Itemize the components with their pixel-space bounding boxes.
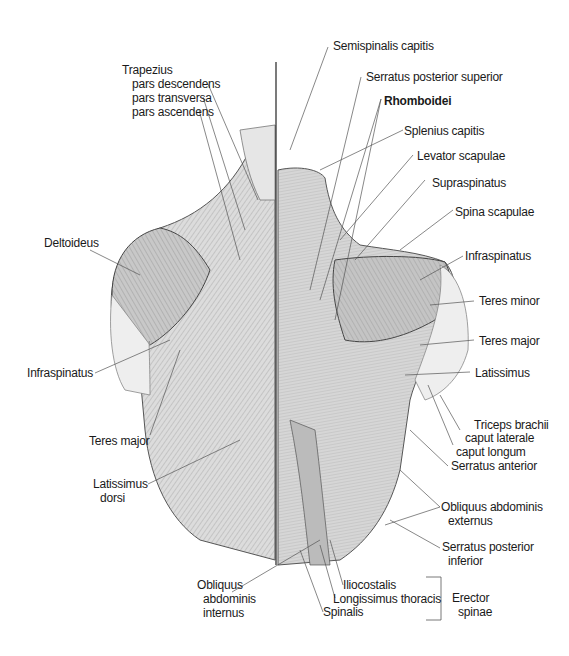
label-obliquus-ext-line1: Obliquus abdominis	[441, 500, 543, 514]
label-rhomboidei: Rhomboidei	[384, 94, 451, 108]
label-teres-major-left: Teres major	[89, 434, 149, 448]
label-latissimus-dorsi: Latissimus dorsi	[93, 477, 148, 505]
label-deltoideus: Deltoideus	[44, 236, 99, 250]
label-obliquus-int-line1: Obliquus	[197, 578, 243, 592]
label-obliquus-internus: Obliquus abdominis internus	[197, 578, 256, 620]
label-spina-scapulae: Spina scapulae	[455, 205, 534, 219]
label-semispinalis-capitis: Semispinalis capitis	[333, 39, 434, 53]
label-obliquus-int-line2: abdominis	[197, 592, 256, 606]
label-serratus-posterior-superior: Serratus posterior superior	[366, 70, 503, 84]
label-trapezius-descendens: pars descendens	[122, 77, 220, 91]
label-iliocostalis: Iliocostalis	[343, 578, 396, 592]
label-obliquus-int-line3: internus	[197, 606, 256, 620]
label-erector-spinae: Erector spinae	[452, 591, 492, 619]
label-trapezius: Trapezius pars descendens pars transvers…	[122, 63, 220, 119]
label-infraspinatus-right: Infraspinatus	[465, 249, 531, 263]
label-trapezius-transversa: pars transversa	[122, 91, 220, 105]
label-serratus-inf-line1: Serratus posterior	[442, 540, 534, 554]
label-levator-scapulae: Levator scapulae	[417, 149, 505, 163]
label-obliquus-ext-line2: externus	[441, 514, 543, 528]
label-spinalis: Spinalis	[323, 605, 363, 619]
label-obliquus-externus: Obliquus abdominis externus	[441, 500, 543, 528]
label-latissimus-right: Latissimus	[475, 366, 530, 380]
label-trapezius-title: Trapezius	[122, 63, 172, 77]
anatomy-figure: Trapezius pars descendens pars transvers…	[0, 0, 569, 656]
label-serratus-posterior-inferior: Serratus posterior inferior	[442, 540, 534, 568]
label-triceps-brachii: Triceps brachii	[474, 418, 549, 432]
label-teres-major-right: Teres major	[479, 334, 539, 348]
label-latissimus-line1: Latissimus	[93, 477, 148, 491]
label-latissimus-line2: dorsi	[93, 491, 148, 505]
deep-back-right	[278, 168, 468, 565]
label-serratus-anterior: Serratus anterior	[451, 459, 537, 473]
label-longissimus-thoracis: Longissimus thoracis	[333, 592, 441, 606]
label-splenius-capitis: Splenius capitis	[404, 124, 484, 138]
label-trapezius-ascendens: pars ascendens	[122, 105, 220, 119]
label-supraspinatus: Supraspinatus	[432, 176, 506, 190]
label-teres-minor: Teres minor	[479, 294, 539, 308]
label-erector-line1: Erector	[452, 591, 489, 605]
label-erector-line2: spinae	[452, 605, 492, 619]
label-caput-laterale: caput laterale	[465, 431, 534, 445]
label-serratus-inf-line2: inferior	[442, 554, 534, 568]
label-infraspinatus-left: Infraspinatus	[27, 366, 93, 380]
label-caput-longum: caput longum	[456, 445, 526, 459]
